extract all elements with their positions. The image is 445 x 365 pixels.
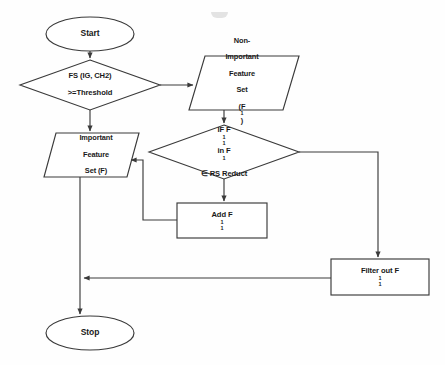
flowchart-shapes-and-connectors [0,0,445,365]
start-terminator-shape [46,17,134,51]
important-set-shape [44,133,139,177]
edge-decision-reduct-to-filter [299,152,378,257]
decision-threshold-shape [20,60,160,110]
add-feature-process-shape [177,203,267,238]
stop-terminator-shape [46,316,134,350]
flowchart-canvas: Start FS (IG, CH2) >=Threshold Non- Impo… [0,0,445,365]
decision-reduct-shape [149,125,299,179]
edge-add-to-important [131,160,177,220]
non-important-set-shape [189,56,299,110]
filter-feature-process-shape [331,259,429,295]
